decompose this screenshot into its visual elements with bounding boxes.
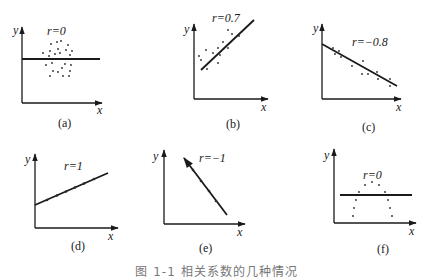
panel-e: y x r=−1 (e) (152, 149, 245, 255)
y-axis-label: y (312, 21, 319, 35)
panel-f: y x r=0 (f) (323, 148, 416, 256)
scatter-points (198, 29, 240, 70)
r-value: r=−0.8 (352, 35, 388, 49)
panel-c: y x r=−0.8 (c) (312, 21, 402, 134)
y-axis-label: y (183, 22, 190, 36)
x-axis-label: x (395, 100, 402, 114)
y-axis-label: y (12, 23, 19, 37)
fit-line (184, 158, 227, 215)
x-axis-label: x (260, 100, 267, 114)
figure-caption: 图 1-1 相关系数的几种情况 (0, 262, 433, 279)
panel-label: (b) (226, 117, 240, 131)
x-axis-label: x (408, 224, 415, 238)
panel-b: y x r=0.7 (b) (183, 11, 268, 131)
r-value: r=0 (363, 168, 382, 182)
r-value: r=1 (64, 159, 83, 173)
panel-label: (d) (71, 239, 85, 253)
fit-line (201, 20, 254, 70)
scatter-points (352, 181, 393, 217)
y-axis-label: y (24, 152, 31, 166)
y-axis-label: y (323, 148, 330, 162)
x-axis-label: x (236, 225, 243, 239)
panel-label: (f) (377, 242, 389, 256)
y-axis-label: y (152, 149, 159, 163)
r-value: r=0.7 (212, 11, 241, 25)
panel-a: y x r=0 (a) (12, 23, 103, 130)
x-axis-label: x (96, 103, 103, 117)
r-value: r=−1 (199, 151, 226, 165)
r-value: r=0 (47, 24, 66, 38)
panel-label: (e) (199, 241, 212, 255)
x-axis-label: x (107, 229, 114, 243)
panel-d: y x r=1 (d) (24, 152, 118, 253)
fit-line (322, 44, 397, 86)
panel-label: (a) (58, 116, 71, 130)
panel-label: (c) (362, 120, 375, 134)
